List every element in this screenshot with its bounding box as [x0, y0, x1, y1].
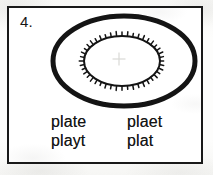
plate-figure-svg	[9, 8, 205, 113]
question-frame: 4. plate playt plaet plat	[7, 6, 203, 164]
answer-column-right: plaet plat	[127, 112, 205, 150]
answer-choice-plat[interactable]: plat	[127, 131, 205, 150]
answer-choices: plate playt plaet plat	[9, 112, 205, 162]
answer-column-left: plate playt	[51, 112, 129, 150]
inner-ellipse-ticks	[79, 32, 163, 91]
outer-ellipse-shape	[53, 16, 195, 106]
answer-choice-plaet[interactable]: plaet	[127, 112, 205, 131]
answer-choice-playt[interactable]: playt	[51, 131, 129, 150]
worksheet-page: 4. plate playt plaet plat	[0, 0, 213, 175]
center-crosshair-icon	[113, 53, 126, 66]
inner-ellipse-shape	[84, 36, 160, 86]
answer-choice-plate[interactable]: plate	[51, 112, 129, 131]
figure-area	[9, 8, 205, 113]
